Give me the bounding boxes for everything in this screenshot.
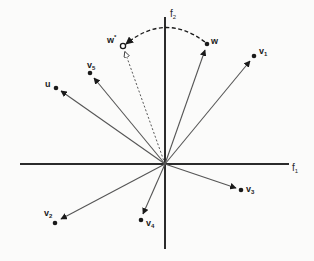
w-point (205, 42, 210, 47)
v5-label-sub: 5 (92, 65, 95, 71)
v2-point (53, 221, 58, 226)
w-star-vector (125, 52, 165, 164)
w-star-label-sup: * (114, 34, 116, 40)
v4-vector (143, 164, 165, 214)
u-label-base: u (45, 79, 51, 89)
u-vector (61, 91, 165, 164)
v1-vector (165, 61, 250, 164)
v1-label: v1 (259, 47, 267, 57)
v1-label-sub: 1 (264, 51, 267, 57)
v3-label: v3 (246, 185, 254, 195)
w-label-base: w (211, 36, 218, 46)
v3-vector (165, 164, 236, 188)
v5-label: v5 (87, 61, 95, 71)
v4-label: v4 (146, 219, 154, 229)
w-star-label: w* (107, 34, 116, 45)
f1-label-sub: 1 (295, 168, 298, 174)
w-vector (165, 50, 205, 164)
v2-vector (61, 164, 165, 219)
v3-point (239, 188, 244, 193)
v4-point (139, 218, 144, 223)
f2-label-sub: 2 (173, 14, 176, 20)
v4-label-sub: 4 (151, 223, 154, 229)
v1-point (252, 54, 257, 59)
w-star-point (120, 43, 125, 48)
u-point (54, 86, 59, 91)
v3-label-sub: 3 (251, 189, 254, 195)
w-label: w (211, 37, 218, 46)
vector-diagram: f1 f2 w* w v1 v5 u v3 v2 v4 (0, 0, 314, 261)
w-star-label-base: w (107, 35, 114, 45)
v2-label-sub: 2 (49, 213, 52, 219)
f2-axis-label: f2 (170, 9, 176, 20)
diagram-canvas (0, 0, 314, 261)
u-label: u (45, 80, 51, 89)
f1-axis-label: f1 (292, 163, 298, 174)
v2-label: v2 (44, 209, 52, 219)
v5-point (88, 71, 93, 76)
